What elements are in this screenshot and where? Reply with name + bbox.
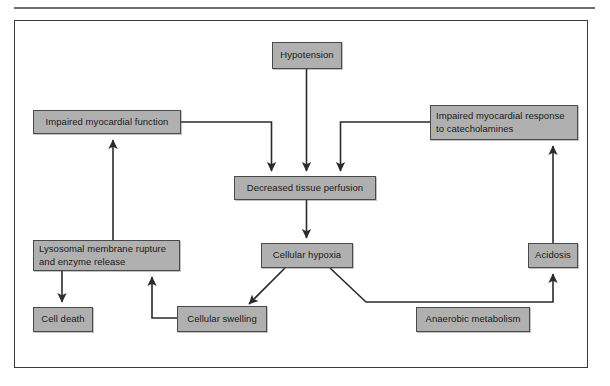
node-hypotension-label: Hypotension [280,49,333,62]
node-cellular-hypoxia[interactable]: Cellular hypoxia [261,243,353,268]
node-decreased-tissue-perfusion-label: Decreased tissue perfusion [247,182,363,195]
node-anaerobic-metabolism-label: Anaerobic metabolism [426,313,521,326]
node-impaired-myocardial-response[interactable]: Impaired myocardial response to catechol… [430,105,578,140]
node-hypotension[interactable]: Hypotension [272,42,342,69]
node-acidosis[interactable]: Acidosis [528,243,578,268]
node-acidosis-label: Acidosis [535,249,571,262]
node-lysosomal-membrane-rupture[interactable]: Lysosomal membrane rupture and enzyme re… [33,240,180,271]
node-decreased-tissue-perfusion[interactable]: Decreased tissue perfusion [234,176,376,200]
node-cellular-swelling[interactable]: Cellular swelling [177,306,267,332]
node-lysosomal-membrane-rupture-label: Lysosomal membrane rupture and enzyme re… [39,243,166,268]
node-cell-death[interactable]: Cell death [33,307,93,332]
node-cellular-hypoxia-label: Cellular hypoxia [273,249,341,262]
node-impaired-myocardial-response-label: Impaired myocardial response to catechol… [436,110,565,135]
figure-root: Hypotension Impaired myocardial function… [0,0,610,386]
node-cellular-swelling-label: Cellular swelling [187,313,257,326]
top-horizontal-rule [14,7,595,9]
node-cell-death-label: Cell death [41,313,84,326]
node-anaerobic-metabolism[interactable]: Anaerobic metabolism [416,307,530,332]
node-impaired-myocardial-function-label: Impaired myocardial function [46,116,169,129]
node-impaired-myocardial-function[interactable]: Impaired myocardial function [33,110,181,134]
